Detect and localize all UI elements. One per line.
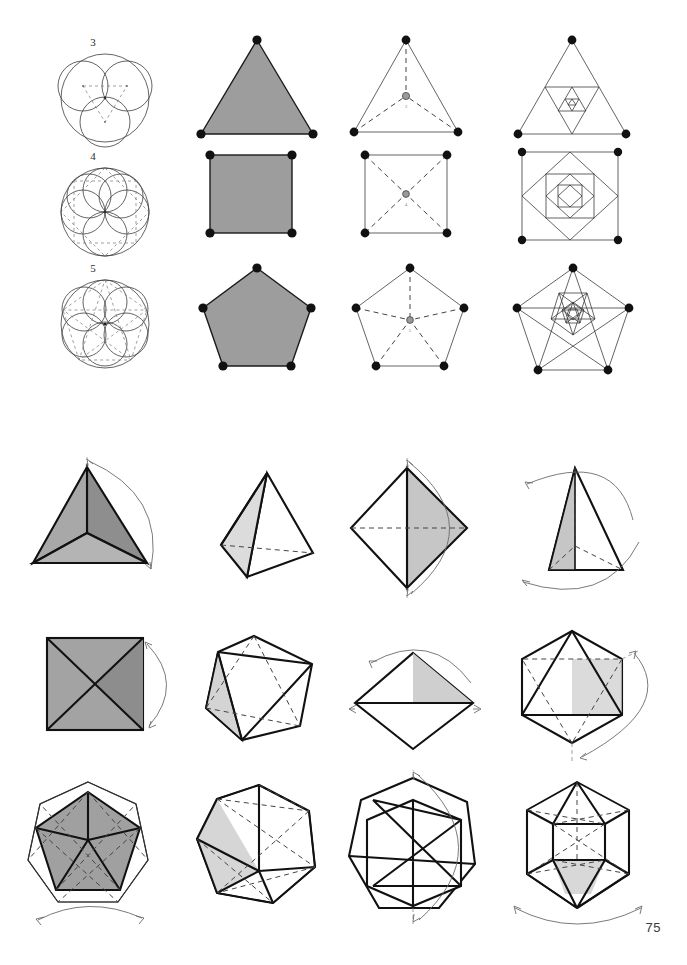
octahedron-edge-view <box>345 625 520 770</box>
geometry-plate: 3 3 <box>0 0 687 965</box>
filled-square <box>200 148 315 243</box>
center-label: 4 <box>405 202 408 207</box>
row-label-3: 3 <box>78 36 108 48</box>
triangle-rosette <box>50 48 160 148</box>
octahedron-perspective <box>190 622 350 762</box>
square-nested <box>508 140 638 250</box>
filled-pentagon <box>195 262 325 372</box>
page-number: 75 <box>646 920 661 935</box>
octahedron-vertex-view <box>500 615 675 770</box>
pentagon-rosette <box>50 274 160 374</box>
pentagon-nested <box>505 262 645 377</box>
center-label: 5 <box>409 328 412 333</box>
octahedron-plan-view <box>25 620 185 760</box>
tetrahedron-plan-view <box>25 445 185 595</box>
pentagon-radial: 5 <box>348 262 478 372</box>
row-label-4: 4 <box>78 150 108 162</box>
tetrahedron-perspective <box>195 455 345 595</box>
icosahedron-vertex-view <box>505 768 675 933</box>
row-label-5: 5 <box>78 262 108 274</box>
icosahedron-plan-view <box>20 770 185 930</box>
square-radial: 4 <box>355 148 470 243</box>
icosahedron-perspective <box>185 775 350 925</box>
tetrahedron-edge-view <box>345 440 520 600</box>
icosahedron-edge-view <box>345 768 520 933</box>
filled-triangle <box>195 32 320 142</box>
triangle-nested <box>508 32 638 142</box>
triangle-radial: 3 <box>348 32 468 142</box>
square-rosette <box>50 162 160 262</box>
center-label: 3 <box>405 104 408 109</box>
tetrahedron-face-view <box>505 450 670 600</box>
